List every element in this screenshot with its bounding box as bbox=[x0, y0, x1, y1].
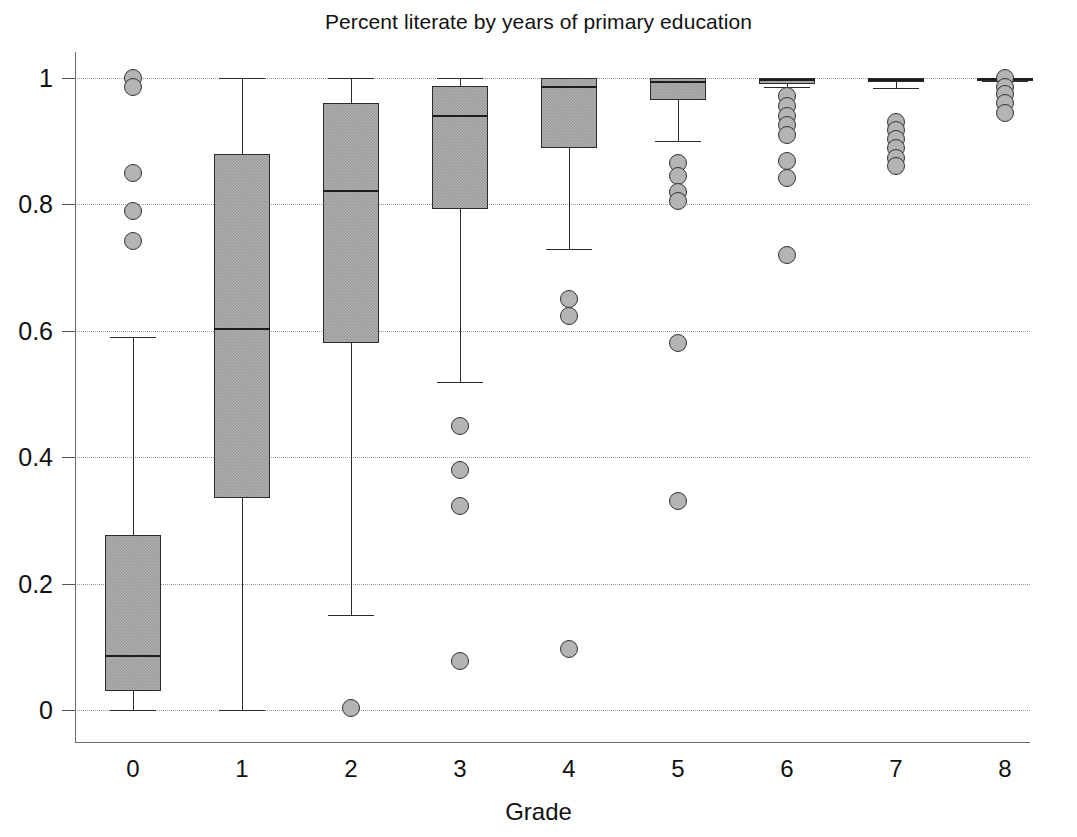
box-plot-chart: Percent literate by years of primary edu… bbox=[0, 0, 1077, 837]
x-tick-label: 6 bbox=[747, 755, 827, 783]
whisker-cap-lower bbox=[219, 710, 265, 711]
box-rect bbox=[323, 103, 379, 343]
x-tick-label: 4 bbox=[529, 755, 609, 783]
outlier-point bbox=[778, 246, 796, 264]
y-tick-label: 1 bbox=[0, 64, 53, 93]
outlier-point bbox=[451, 652, 469, 670]
outlier-point bbox=[124, 78, 142, 96]
whisker-lower bbox=[133, 691, 134, 710]
median-line bbox=[868, 79, 924, 81]
whisker-upper bbox=[133, 337, 134, 535]
whisker-cap-upper bbox=[110, 337, 156, 338]
x-axis-title: Grade bbox=[0, 798, 1077, 826]
y-tick-label: 0.6 bbox=[0, 316, 53, 345]
outlier-point bbox=[560, 307, 578, 325]
median-line bbox=[323, 190, 379, 192]
box-rect bbox=[541, 78, 597, 148]
outlier-point bbox=[669, 192, 687, 210]
box-rect bbox=[214, 154, 270, 498]
whisker-cap-upper bbox=[219, 78, 265, 79]
outlier-point bbox=[124, 232, 142, 250]
whisker-cap-lower bbox=[546, 249, 592, 250]
outlier-point bbox=[451, 461, 469, 479]
outlier-point bbox=[451, 497, 469, 515]
outlier-point bbox=[669, 492, 687, 510]
x-tick-label: 2 bbox=[311, 755, 391, 783]
outlier-point bbox=[778, 126, 796, 144]
outlier-point bbox=[560, 640, 578, 658]
box-rect bbox=[432, 86, 488, 209]
x-axis-line bbox=[75, 742, 1030, 743]
outlier-point bbox=[669, 334, 687, 352]
y-tick-mark bbox=[62, 78, 75, 79]
whisker-cap-lower bbox=[655, 141, 701, 142]
median-line bbox=[432, 115, 488, 117]
x-tick-label: 3 bbox=[420, 755, 500, 783]
whisker-cap-upper bbox=[437, 78, 483, 79]
outlier-point bbox=[451, 417, 469, 435]
x-tick-label: 8 bbox=[965, 755, 1045, 783]
outlier-point bbox=[778, 152, 796, 170]
outlier-point bbox=[996, 104, 1014, 122]
y-tick-mark bbox=[62, 204, 75, 205]
y-tick-label: 0.8 bbox=[0, 190, 53, 219]
whisker-upper bbox=[460, 78, 461, 86]
whisker-upper bbox=[351, 78, 352, 103]
outlier-point bbox=[124, 164, 142, 182]
y-axis-line bbox=[75, 52, 76, 742]
y-tick-mark bbox=[62, 457, 75, 458]
outlier-point bbox=[124, 202, 142, 220]
whisker-lower bbox=[569, 148, 570, 249]
median-line bbox=[650, 81, 706, 83]
whisker-cap-lower bbox=[873, 88, 919, 89]
outlier-point bbox=[560, 290, 578, 308]
whisker-cap-upper bbox=[328, 78, 374, 79]
outlier-point bbox=[778, 169, 796, 187]
outlier-point bbox=[342, 699, 360, 717]
median-line bbox=[759, 79, 815, 81]
y-tick-label: 0.2 bbox=[0, 569, 53, 598]
median-line bbox=[105, 655, 161, 657]
x-tick-label: 0 bbox=[93, 755, 173, 783]
whisker-upper bbox=[242, 78, 243, 154]
y-tick-label: 0.4 bbox=[0, 443, 53, 472]
whisker-lower bbox=[460, 209, 461, 382]
whisker-lower bbox=[678, 100, 679, 141]
y-gridline bbox=[75, 584, 1030, 585]
outlier-point bbox=[887, 157, 905, 175]
median-line bbox=[541, 86, 597, 88]
box-rect bbox=[105, 535, 161, 691]
y-tick-label: 0 bbox=[0, 696, 53, 725]
y-tick-mark bbox=[62, 710, 75, 711]
plot-area: 00.20.40.60.81012345678 bbox=[0, 0, 1077, 837]
whisker-cap-lower bbox=[437, 382, 483, 383]
x-tick-label: 5 bbox=[638, 755, 718, 783]
x-tick-label: 7 bbox=[856, 755, 936, 783]
y-tick-mark bbox=[62, 584, 75, 585]
y-tick-mark bbox=[62, 331, 75, 332]
whisker-cap-lower bbox=[110, 710, 156, 711]
whisker-lower bbox=[242, 498, 243, 710]
x-tick-label: 1 bbox=[202, 755, 282, 783]
median-line bbox=[214, 328, 270, 330]
whisker-cap-lower bbox=[328, 615, 374, 616]
whisker-lower bbox=[351, 343, 352, 615]
